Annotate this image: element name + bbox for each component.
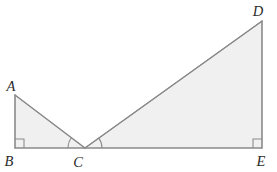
vertex-label-e: E	[256, 153, 266, 169]
vertex-label-b: B	[5, 153, 14, 169]
vertex-label-c: C	[73, 154, 83, 170]
vertex-label-a: A	[6, 78, 16, 94]
geometry-diagram: A B C D E	[0, 0, 277, 172]
vertex-label-d: D	[252, 3, 264, 19]
figure-canvas: A B C D E	[0, 0, 277, 172]
